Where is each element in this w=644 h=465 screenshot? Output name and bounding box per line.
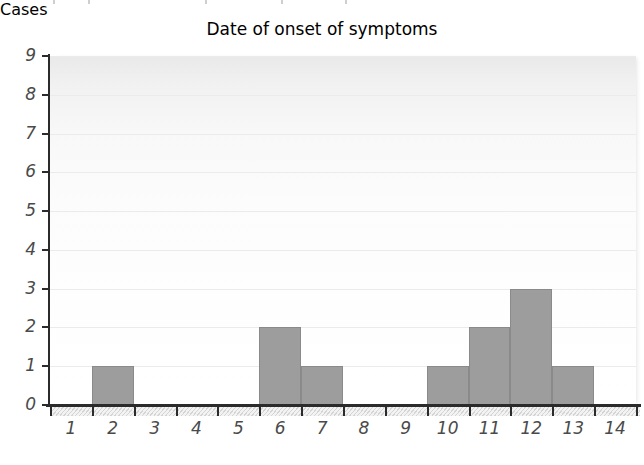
y-axis-tick-label: 5	[6, 202, 36, 219]
x-axis-tick	[176, 405, 178, 416]
bar	[301, 366, 343, 405]
bar	[92, 366, 134, 405]
y-axis-tick	[42, 404, 50, 406]
y-axis-tick-label: 7	[6, 125, 36, 142]
x-axis-tick-label: 5	[217, 420, 259, 437]
gridline	[50, 56, 636, 57]
x-axis-tick	[427, 405, 429, 416]
y-axis-line	[48, 54, 50, 407]
y-axis-tick-label: 3	[6, 280, 36, 297]
y-axis-tick	[42, 94, 50, 96]
y-axis-tick	[42, 365, 50, 367]
bar	[427, 366, 469, 405]
x-axis-title: Date of onset of symptoms	[0, 19, 644, 39]
x-axis-tick	[50, 405, 52, 416]
gridline	[50, 134, 636, 135]
x-axis-tick	[636, 405, 638, 416]
x-axis-tick	[552, 405, 554, 416]
x-axis-tick	[92, 405, 94, 416]
x-axis-tick-label: 2	[92, 420, 134, 437]
x-axis-tick	[259, 405, 261, 416]
x-axis-tick-label: 4	[176, 420, 218, 437]
bar	[259, 327, 301, 405]
x-axis-tick-label: 11	[469, 420, 511, 437]
gridline	[50, 250, 636, 251]
y-axis-tick-label: 0	[6, 396, 36, 413]
x-axis-tick	[217, 405, 219, 416]
gridline	[50, 95, 636, 96]
x-axis-tick-label: 7	[301, 420, 343, 437]
x-axis-tick-label: 12	[510, 420, 552, 437]
y-axis-tick	[42, 55, 50, 57]
x-axis-tick-label: 8	[343, 420, 385, 437]
plot-area	[50, 56, 636, 405]
y-axis-tick-label: 1	[6, 357, 36, 374]
gridline	[50, 211, 636, 212]
y-axis-tick	[42, 288, 50, 290]
epidemic-curve-chart: Cases 0123456789 1234567891011121314 Dat…	[0, 0, 644, 465]
x-axis-tick	[469, 405, 471, 416]
x-axis-tick-label: 9	[385, 420, 427, 437]
y-axis-tick	[42, 171, 50, 173]
x-axis-tick-label: 14	[594, 420, 636, 437]
y-axis-tick	[42, 210, 50, 212]
y-axis-tick-label: 6	[6, 163, 36, 180]
x-axis-tick	[594, 405, 596, 416]
x-axis-tick-label: 3	[134, 420, 176, 437]
x-axis-tick-label: 13	[552, 420, 594, 437]
x-axis-tick	[134, 405, 136, 416]
x-axis-tick-label: 10	[427, 420, 469, 437]
x-axis-tick	[343, 405, 345, 416]
x-axis-tick	[301, 405, 303, 416]
y-axis-tick	[42, 326, 50, 328]
x-axis-tick	[385, 405, 387, 416]
y-axis-tick-label: 9	[6, 47, 36, 64]
y-axis-tick	[42, 133, 50, 135]
x-axis-tick-label: 6	[259, 420, 301, 437]
x-axis-tick-label: 1	[50, 420, 92, 437]
y-axis-tick-label: 2	[6, 318, 36, 335]
bar	[552, 366, 594, 405]
bar	[469, 327, 511, 405]
y-axis-tick-label: 4	[6, 241, 36, 258]
gridline	[50, 172, 636, 173]
y-axis-title: Cases	[0, 0, 644, 19]
y-axis-tick-label: 8	[6, 86, 36, 103]
x-axis-tick	[510, 405, 512, 416]
bar	[510, 289, 552, 405]
y-axis-tick	[42, 249, 50, 251]
